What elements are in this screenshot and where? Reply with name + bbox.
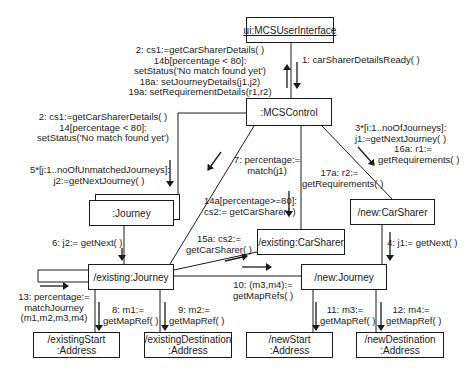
message-8: 8: m1:= getMapRef( ) <box>103 305 153 326</box>
message-line: 9: m2:= <box>169 305 219 316</box>
message-line: cs2:= getCarSharer( ) <box>204 207 294 218</box>
message-line: 15a: cs2:= <box>184 234 254 245</box>
object-label: /newStart <box>268 334 310 345</box>
message-line: getMapRef( ) <box>103 316 153 327</box>
message-line: 19a: setRequirementDetails(r1,r2) <box>120 87 280 98</box>
object-existing-carsharer: /existing:CarSharer <box>257 229 345 255</box>
message-line: 16a: r1:= <box>378 144 448 155</box>
message-line: getMapRef( ) <box>169 316 219 327</box>
message-line: 14a[percentage>=80]: <box>204 196 294 207</box>
object-label: /newDestination <box>364 334 435 345</box>
message-line: setStatus('No match found yet') <box>30 133 176 144</box>
message-line: 2: cs1:=getCarSharerDetails( ) <box>30 112 176 123</box>
object-new-destination-address: /newDestination :Address <box>356 332 444 358</box>
message-6: 6: j2:= getNext( ) <box>52 238 123 249</box>
object-existing-destination-address: /existingDestination :Address <box>144 332 232 358</box>
object-new-journey: /new:Journey <box>301 264 387 290</box>
object-label: /existingDestination <box>145 334 232 345</box>
message-line: match(j1) <box>232 166 302 177</box>
message-5: 5*[j:1..noOfUnmatchedJourneys]: j2:=getN… <box>30 165 168 186</box>
message-16a: 16a: r1:= getRequirements( ) <box>378 144 448 165</box>
object-mcscontrol: :MCSControl <box>246 98 332 126</box>
object-type: :Address <box>168 345 207 356</box>
object-label: ui:MCSUserInterface <box>244 25 337 36</box>
object-label: :MCSControl <box>260 107 317 118</box>
message-line: 12: m4:= <box>386 305 436 316</box>
message-7: 7: percentage:= match(j1) <box>232 155 302 176</box>
message-line: getCarSharer( ) <box>184 245 254 256</box>
message-10: 10: (m3,m4):= getMapRefs( ) <box>228 280 298 301</box>
message-13: 13: percentage:= matchJourney (m1,m2,m3,… <box>17 292 91 324</box>
object-new-start-address: /newStart :Address <box>246 332 333 358</box>
message-11: 11: m3:= getMapRef( ) <box>320 305 370 326</box>
message-line: 7: percentage:= <box>232 155 302 166</box>
message-line: getMapRefs( ) <box>228 291 298 302</box>
message-line: getRequirements( ) <box>378 155 448 166</box>
message-line: setStatus('No match found yet') <box>120 66 280 77</box>
object-label: /existingStart <box>48 334 106 345</box>
message-line: getRequirements( ) <box>302 179 377 190</box>
message-9: 9: m2:= getMapRef( ) <box>169 305 219 326</box>
message-line: (m1,m2,m3,m4) <box>17 313 91 324</box>
message-line: getMapRef( ) <box>386 316 436 327</box>
object-label: /existing:Journey <box>93 272 168 283</box>
object-type: :Address <box>380 345 419 356</box>
message-ui-return: 2: cs1:=getCarSharerDetails( ) 14b[perce… <box>120 45 280 98</box>
message-line: 5*[j:1..noOfUnmatchedJourneys]: <box>30 165 168 176</box>
message-17a: 17a: r2:= getRequirements( ) <box>302 168 377 189</box>
object-existing-journey: /existing:Journey <box>88 264 174 290</box>
message-line: getMapRef( ) <box>320 316 370 327</box>
message-line: j2:=getNextJourney( ) <box>30 176 168 187</box>
object-label: /new:CarSharer <box>357 207 427 218</box>
object-ui-mcsuserinterface: ui:MCSUserInterface <box>246 17 334 43</box>
message-2-journey: 2: cs1:=getCarSharerDetails( ) 14[percen… <box>30 112 176 144</box>
object-type: :Address <box>57 345 96 356</box>
message-line: 10: (m3,m4):= <box>228 280 298 291</box>
message-4: 4: j1:= getNext( ) <box>387 238 458 249</box>
message-line: 2: cs1:=getCarSharerDetails( ) <box>120 45 280 56</box>
message-15a: 15a: cs2:= getCarSharer( ) <box>184 234 254 255</box>
message-14a: 14a[percentage>=80]: cs2:= getCarSharer(… <box>204 196 294 217</box>
message-line: 3*[i:1..noOfJourneys]: <box>355 123 446 134</box>
object-label: /existing:CarSharer <box>258 237 344 248</box>
object-journey-multi: :Journey <box>89 200 174 226</box>
object-new-carsharer: /new:CarSharer <box>350 199 435 225</box>
message-1: 1: carSharerDetailsReady( ) <box>302 55 420 66</box>
object-label: /new:Journey <box>314 272 373 283</box>
object-type: :Address <box>270 345 309 356</box>
message-line: 8: m1:= <box>103 305 153 316</box>
message-line: 13: percentage:= <box>17 292 91 303</box>
message-12: 12: m4:= getMapRef( ) <box>386 305 436 326</box>
object-existing-start-address: /existingStart :Address <box>33 332 120 358</box>
object-label: :Journey <box>112 208 150 219</box>
message-line: 17a: r2:= <box>302 168 377 179</box>
message-line: 11: m3:= <box>320 305 370 316</box>
message-3: 3*[i:1..noOfJourneys]: j1:=getNextJourne… <box>355 123 446 144</box>
